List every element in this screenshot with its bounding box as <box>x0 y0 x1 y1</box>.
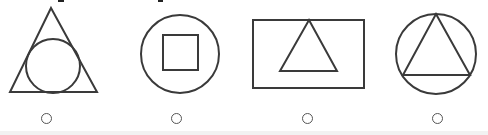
bottom-divider <box>0 131 488 135</box>
choice-a-radio[interactable] <box>41 113 52 124</box>
choice-b-figure <box>141 15 219 93</box>
shapes-figure <box>0 0 488 135</box>
triangle-shape <box>280 20 337 71</box>
choice-d-radio[interactable] <box>432 113 443 124</box>
choice-d-figure <box>396 14 476 94</box>
circle-shape <box>141 15 219 93</box>
circle-shape <box>396 14 476 94</box>
square-shape <box>163 35 198 70</box>
choice-b-radio[interactable] <box>171 113 182 124</box>
rectangle-shape <box>253 20 364 88</box>
triangle-shape <box>10 8 97 92</box>
choice-c-figure <box>253 20 364 88</box>
choice-c-radio[interactable] <box>302 113 313 124</box>
choice-a-figure <box>10 8 97 93</box>
circle-shape <box>26 39 80 93</box>
